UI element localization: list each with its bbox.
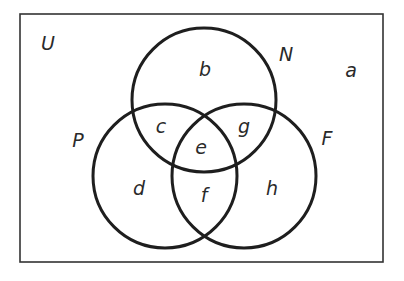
region-outside-label: a (345, 59, 357, 81)
region-n-p-label: c (156, 115, 167, 137)
set-n-label: N (279, 43, 293, 65)
venn-diagram: U N P F a b c d e f g h (0, 0, 404, 281)
region-n-p-f-label: e (195, 136, 207, 158)
region-p-f-label: f (201, 184, 211, 206)
region-p-only-label: d (133, 177, 146, 199)
set-f-label: F (322, 127, 334, 149)
region-n-f-label: g (238, 115, 250, 137)
region-f-only-label: h (266, 177, 278, 199)
universe-label: U (41, 32, 55, 54)
region-n-only-label: b (199, 58, 211, 80)
set-p-label: P (72, 129, 84, 151)
